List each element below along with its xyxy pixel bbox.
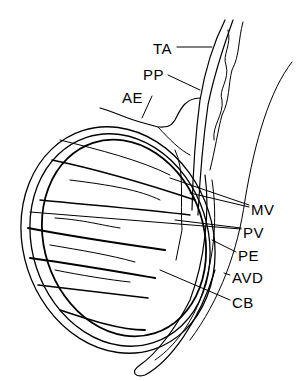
label-CB: CB <box>232 295 254 310</box>
label-AE: AE <box>122 90 143 105</box>
vessel <box>50 245 135 262</box>
label-PV: PV <box>243 225 264 240</box>
vessel <box>60 140 170 175</box>
epididymal-artery <box>100 98 200 127</box>
vessel <box>55 218 120 228</box>
septum <box>40 200 190 215</box>
septum <box>28 228 165 250</box>
tunica-albuginea <box>17 118 231 358</box>
leader-CB <box>160 270 230 300</box>
leader-AE <box>142 96 152 118</box>
label-PP: PP <box>143 67 164 82</box>
testis-diagram: TA PP AE MV PV PE AVD CB <box>0 0 302 381</box>
plexus-veins <box>214 30 229 140</box>
label-MV: MV <box>251 202 275 217</box>
vas-deferens <box>155 180 215 360</box>
artery-branch <box>158 127 190 155</box>
leader-PP <box>168 75 200 90</box>
vessel <box>60 310 145 330</box>
spermatic-cord-inner <box>198 20 233 215</box>
septum <box>30 258 155 278</box>
tunica-outer <box>0 101 244 378</box>
label-TA: TA <box>153 41 172 56</box>
vessel <box>70 180 160 200</box>
mediastinum <box>175 150 182 260</box>
label-AVD: AVD <box>232 270 263 285</box>
testis-line-drawing <box>0 0 302 381</box>
tunica-inner <box>3 110 237 370</box>
label-PE: PE <box>238 248 259 263</box>
septum <box>38 285 148 298</box>
